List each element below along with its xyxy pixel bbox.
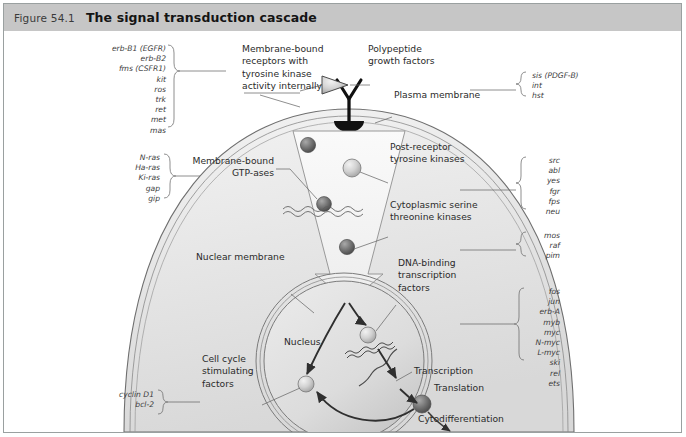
gene-list-cell-cycle: cyclin D1 bcl-2 [90,390,154,410]
label-polypeptide-growth-factors: Polypeptide growth factors [368,43,435,68]
label-transcription: Transcription [414,365,473,377]
label-polypeptide-growth-factors-text: Polypeptide growth factors [368,43,435,66]
label-cytodifferentiation: Cytodifferentiation [418,413,504,425]
gene-list-serine-threonine-kinases-text: mos raf pim [544,231,560,260]
gene-list-growth-factors: sis (PDGF-B) int hst [532,71,622,102]
gene-list-transcription-factors-text: fos jun erb-A myb myc N-myc L-myc ski re… [536,287,561,388]
gene-list-gtpases-text: N-ras Ha-ras Ki-ras gap gip [135,153,160,203]
figure-root: Figure 54.1 The signal transduction casc… [0,0,686,437]
gene-list-growth-factors-text: sis (PDGF-B) int hst [532,71,579,100]
label-transcription-text: Transcription [414,365,473,376]
label-membrane-bound-receptors-text: Membrane-bound receptors with tyrosine k… [242,43,324,91]
figure-canvas: erb-B1 (EGFR) erb-B2 fms (CSFR1) kit ros… [4,31,681,432]
gene-list-receptor-tyrosine-kinases: erb-B1 (EGFR) erb-B2 fms (CSFR1) kit ros… [100,44,166,136]
label-nuclear-membrane: Nuclear membrane [196,251,285,263]
label-translation: Translation [434,382,484,394]
label-dna-binding-transcription-factors: DNA-binding transcription factors [398,257,456,294]
gene-list-gtpases: N-ras Ha-ras Ki-ras gap gip [100,153,160,204]
figure-number: Figure 54.1 [14,12,75,24]
label-cell-cycle-stimulating-factors-text: Cell cycle stimulating factors [202,353,254,389]
gene-list-receptor-tyrosine-kinases-text: erb-B1 (EGFR) erb-B2 fms (CSFR1) kit ros… [112,44,166,135]
label-dna-binding-transcription-factors-text: DNA-binding transcription factors [398,257,456,293]
label-plasma-membrane-text: Plasma membrane [394,89,480,100]
label-translation-text: Translation [434,382,484,393]
label-membrane-bound-gtpases-text: Membrane-bound GTP-ases [193,155,275,178]
label-membrane-bound-gtpases: Membrane-bound GTP-ases [172,155,274,180]
label-nuclear-membrane-text: Nuclear membrane [196,251,285,262]
gene-list-post-receptor-tyrosine-kinases-text: src abl yes fgr fps neu [546,156,560,216]
label-plasma-membrane: Plasma membrane [394,89,480,101]
figure-header: Figure 54.1 The signal transduction casc… [4,4,681,31]
label-membrane-bound-receptors: Membrane-bound receptors with tyrosine k… [242,43,324,93]
gene-list-transcription-factors: fos jun erb-A myb myc N-myc L-myc ski re… [524,287,560,389]
label-cytodifferentiation-text: Cytodifferentiation [418,413,504,424]
label-nucleus: Nucleus [284,336,321,348]
gene-list-cell-cycle-text: cyclin D1 bcl-2 [119,390,154,409]
label-cytoplasmic-serine-threonine-kinases: Cytoplasmic serine threonine kinases [390,199,478,224]
gene-list-serine-threonine-kinases: mos raf pim [532,231,560,262]
label-cytoplasmic-serine-threonine-kinases-text: Cytoplasmic serine threonine kinases [390,199,478,222]
label-nucleus-text: Nucleus [284,336,321,347]
gene-list-post-receptor-tyrosine-kinases: src abl yes fgr fps neu [532,156,560,217]
label-post-receptor-tyrosine-kinases-text: Post-receptor tyrosine kinases [390,141,465,164]
label-cell-cycle-stimulating-factors: Cell cycle stimulating factors [202,353,254,390]
page-title: The signal transduction cascade [86,10,317,25]
label-post-receptor-tyrosine-kinases: Post-receptor tyrosine kinases [390,141,465,166]
